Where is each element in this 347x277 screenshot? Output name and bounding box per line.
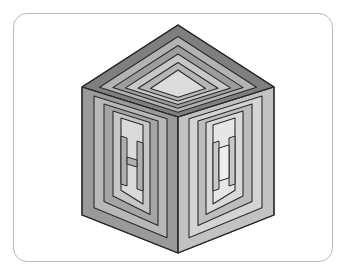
cube-svg <box>0 0 347 277</box>
screenshot-root <box>0 0 347 277</box>
isometric-cube-figure <box>0 0 347 277</box>
right-inner-bar-left <box>213 141 219 191</box>
left-inner-bar-right <box>137 141 143 191</box>
right-inner-panel <box>219 145 229 181</box>
left-inner-bar-left <box>121 136 127 186</box>
right-inner-bar-right <box>229 136 235 186</box>
